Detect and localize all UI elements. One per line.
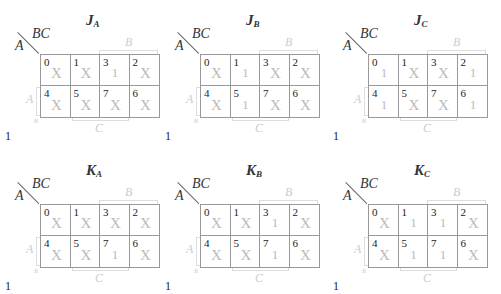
bc-label: BC	[192, 26, 210, 42]
cell-value: 1	[272, 247, 279, 263]
cell-index: 1	[402, 206, 408, 218]
cell-index: 4	[204, 237, 210, 249]
cell-value: 1	[112, 247, 119, 263]
cell-value: X	[438, 96, 449, 113]
cell-index: 2	[133, 56, 139, 68]
cell-value: X	[211, 96, 222, 113]
cell-index: 6	[293, 237, 299, 249]
corner-mark: B	[194, 268, 198, 274]
kmap-title: JB	[246, 12, 260, 29]
cell-value: 1	[440, 247, 447, 263]
corner-mark: B	[34, 268, 38, 274]
cell-value: X	[408, 65, 419, 82]
kmap-cell: 1 X	[231, 205, 261, 236]
bc-label: BC	[192, 176, 210, 192]
cell-value: 1	[242, 97, 249, 113]
cell-value: X	[51, 65, 62, 82]
cell-index: 0	[44, 206, 50, 218]
cell-value: X	[110, 96, 121, 113]
corner-mark: B	[194, 118, 198, 124]
kmap-cell: 0 X	[201, 205, 231, 236]
cell-value: X	[379, 215, 390, 232]
footnote-number: 1	[165, 279, 171, 294]
kmap-grid: 0 1 1 X 3 X 2 1 4 1 5 X 7 X 6 1	[368, 54, 488, 118]
cell-index: 5	[402, 87, 408, 99]
cell-value: X	[408, 96, 419, 113]
kmap-cell: 7 X	[260, 86, 290, 117]
kmap-cell: 0 X	[369, 205, 399, 236]
b-bracket-label: B	[125, 35, 132, 50]
cell-value: 1	[410, 215, 417, 231]
cell-value: X	[51, 96, 62, 113]
kmap-cell: 3 1	[428, 205, 458, 236]
cell-index: 7	[431, 237, 437, 249]
kmap-cell: 2 X	[458, 205, 488, 236]
kmap-cell: 6 X	[130, 86, 160, 117]
kmap-cell: 7 X	[100, 86, 130, 117]
cell-index: 0	[372, 56, 378, 68]
cell-index: 1	[234, 206, 240, 218]
kmap-cell: 5 X	[231, 236, 261, 267]
kmap-cell: 4 X	[41, 86, 71, 117]
footnote-number: 1	[5, 279, 11, 294]
cell-value: 1	[242, 65, 249, 81]
cell-index: 1	[74, 206, 80, 218]
kmap-cell: 0 X	[201, 55, 231, 86]
kmap-cell: 4 X	[369, 236, 399, 267]
a-label: A	[15, 188, 24, 204]
cell-value: X	[211, 246, 222, 263]
kmap-title: KA	[86, 162, 102, 179]
cell-index: 2	[461, 56, 467, 68]
cell-index: 5	[74, 87, 80, 99]
cell-value: 1	[470, 97, 477, 113]
cell-index: 3	[103, 56, 109, 68]
kmap-cell: 7 1	[428, 236, 458, 267]
kmap-k-a: KABCABACB1 0 X 1 X 3 X 2 X 4 X 5 X 7 1 6…	[0, 150, 165, 290]
cell-value: X	[140, 215, 151, 232]
kmap-grid: 0 X 1 X 3 1 2 X 4 X 5 X 7 X 6 X	[40, 54, 160, 118]
kmap-grid: 0 X 1 X 3 1 2 X 4 X 5 X 7 1 6 X	[200, 204, 320, 268]
kmap-title: KB	[246, 162, 262, 179]
cell-value: 1	[470, 65, 477, 81]
corner-mark: B	[362, 268, 366, 274]
bc-label: BC	[360, 176, 378, 192]
kmap-title: JA	[86, 12, 100, 29]
cell-value: X	[270, 96, 281, 113]
cell-index: 1	[234, 56, 240, 68]
cell-index: 3	[263, 206, 269, 218]
cell-index: 7	[431, 87, 437, 99]
kmap-j-a: JABCABACB1 0 X 1 X 3 1 2 X 4 X 5 X 7 X 6…	[0, 0, 165, 140]
kmap-j-c: JCBCABACB1 0 1 1 X 3 X 2 1 4 1 5 X 7 X 6…	[328, 0, 493, 140]
kmap-cell: 6 X	[458, 236, 488, 267]
cell-index: 1	[402, 56, 408, 68]
cell-index: 3	[263, 56, 269, 68]
cell-value: X	[51, 215, 62, 232]
kmap-cell: 0 X	[41, 205, 71, 236]
bc-label: BC	[32, 176, 50, 192]
cell-index: 5	[402, 237, 408, 249]
cell-value: X	[438, 65, 449, 82]
cell-index: 7	[263, 237, 269, 249]
cell-index: 0	[372, 206, 378, 218]
a-label: A	[175, 188, 184, 204]
kmap-cell: 4 1	[369, 86, 399, 117]
c-bracket-label: C	[423, 121, 431, 136]
cell-value: X	[140, 246, 151, 263]
cell-value: 1	[440, 215, 447, 231]
c-bracket-label: C	[423, 271, 431, 286]
cell-index: 4	[44, 237, 50, 249]
kmap-grid: 0 X 1 X 3 X 2 X 4 X 5 X 7 1 6 X	[40, 204, 160, 268]
c-bracket-label: C	[255, 121, 263, 136]
cell-value: 1	[381, 97, 388, 113]
cell-value: X	[51, 246, 62, 263]
cell-index: 2	[133, 206, 139, 218]
cell-value: X	[468, 246, 479, 263]
kmap-cell: 2 1	[458, 55, 488, 86]
kmap-cell: 0 1	[369, 55, 399, 86]
kmap-cell: 6 1	[458, 86, 488, 117]
cell-index: 5	[74, 237, 80, 249]
kmap-cell: 3 X	[428, 55, 458, 86]
kmap-cell: 5 X	[71, 236, 101, 267]
a-label: A	[15, 38, 24, 54]
kmap-k-c: KCBCABACB1 0 X 1 1 3 1 2 X 4 X 5 1 7 1 6…	[328, 150, 493, 290]
